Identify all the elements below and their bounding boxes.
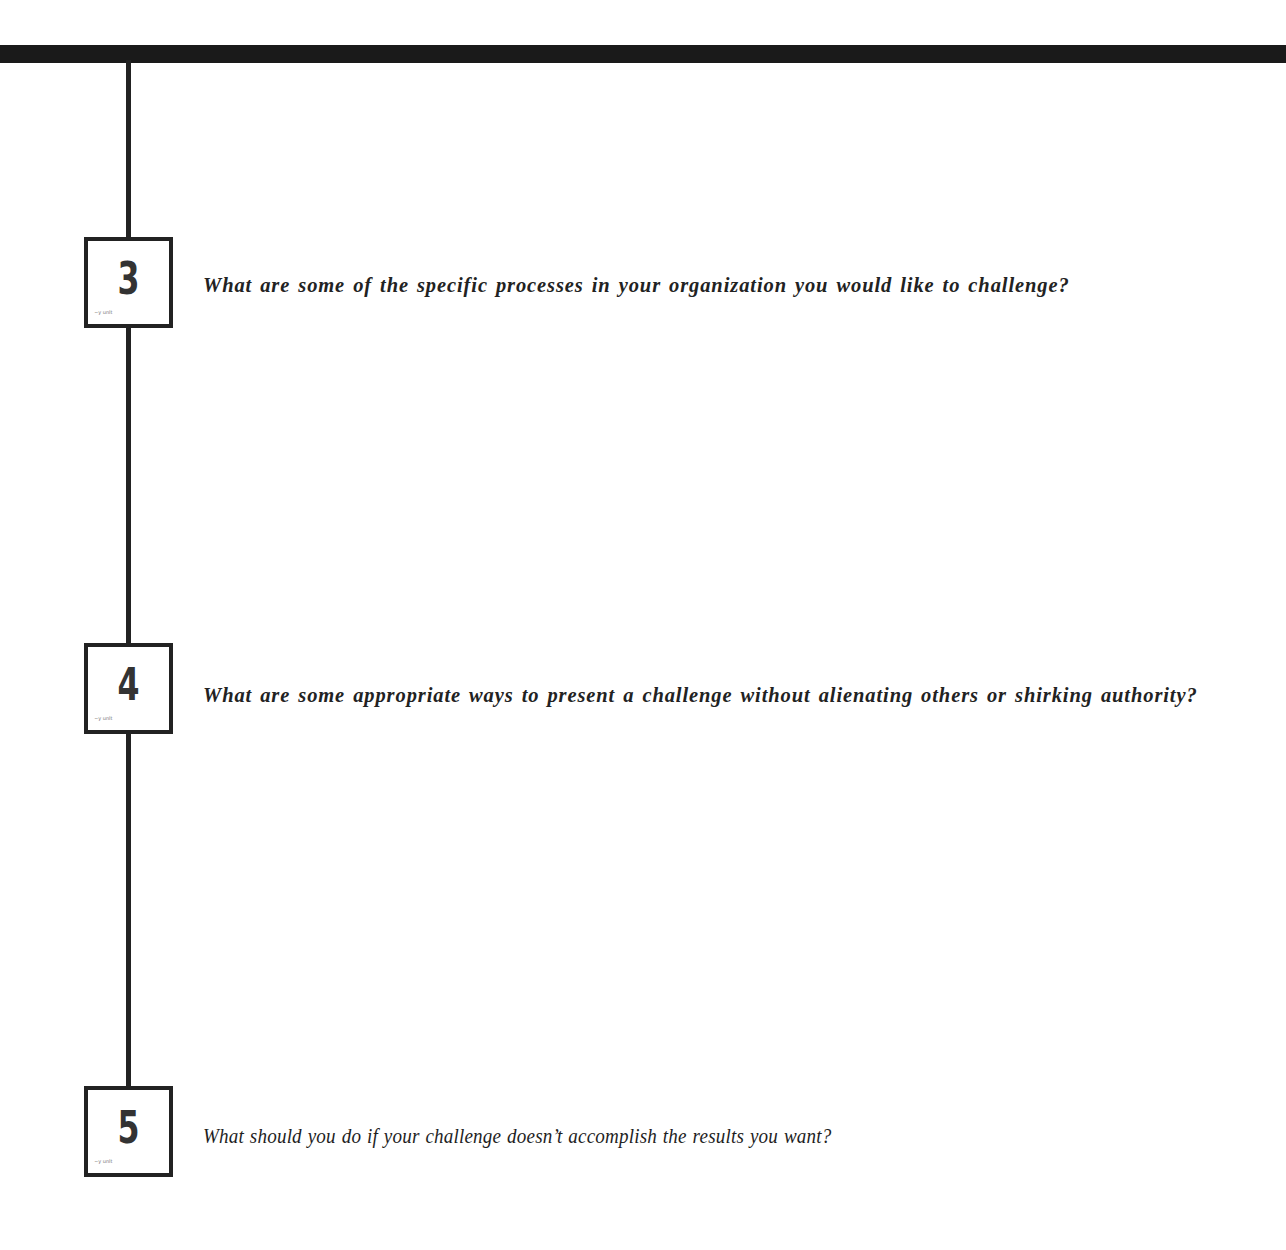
timeline-line [126,60,131,1088]
step-3-scribble: ~y unlt [94,309,112,315]
step-5-question: What should you do if your challenge doe… [203,1125,831,1148]
step-4-box: 4 ~y unlt [84,643,173,734]
step-4-question: What are some appropriate ways to presen… [203,684,1198,707]
step-5-scribble: ~y unlt [94,1158,112,1164]
step-4-number: 4 [99,661,157,709]
step-3-question: What are some of the specific processes … [203,274,1070,297]
step-5-number: 5 [99,1104,157,1152]
step-5-box: 5 ~y unlt [84,1086,173,1177]
step-4-scribble: ~y unlt [94,715,112,721]
step-3-number: 3 [99,255,157,303]
top-rule [0,45,1286,63]
step-3-box: 3 ~y unlt [84,237,173,328]
